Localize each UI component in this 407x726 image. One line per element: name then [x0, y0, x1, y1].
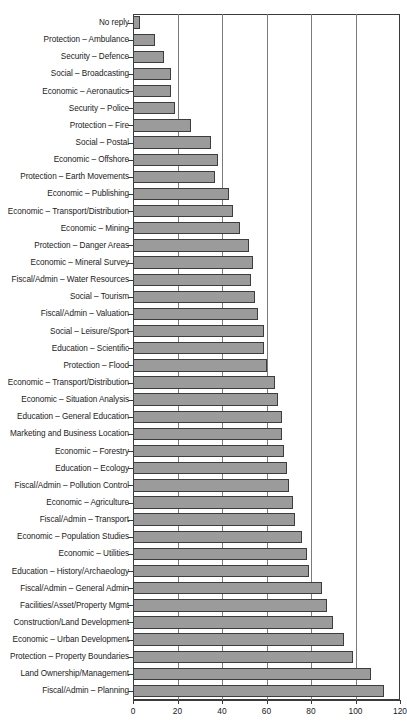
bar[interactable]	[133, 616, 333, 628]
bar[interactable]	[133, 342, 264, 354]
bar[interactable]	[133, 222, 240, 234]
bar[interactable]	[133, 599, 327, 611]
bar[interactable]	[133, 68, 171, 80]
bar[interactable]	[133, 256, 253, 268]
bar-row[interactable]: Marketing and Business Location	[0, 425, 406, 442]
category-label: Land Ownership/Management	[21, 665, 129, 682]
bar-row[interactable]: Fiscal/Admin – Transport	[0, 511, 406, 528]
bar-row[interactable]: Education – History/Archaeology	[0, 563, 406, 580]
bar[interactable]	[133, 239, 249, 251]
bar-track	[133, 445, 400, 457]
bar-row[interactable]: Protection – Ambulance	[0, 31, 406, 48]
bar[interactable]	[133, 428, 282, 440]
bar-row[interactable]: Protection – Danger Areas	[0, 237, 406, 254]
bar-row[interactable]: Economic – Mineral Survey	[0, 254, 406, 271]
bar[interactable]	[133, 411, 282, 423]
bar-row[interactable]: Economic – Transport/Distribution	[0, 374, 406, 391]
bar-row[interactable]: Economic – Mining	[0, 220, 406, 237]
bar[interactable]	[133, 188, 229, 200]
bar-track	[133, 171, 400, 183]
bar[interactable]	[133, 565, 309, 577]
bar-track	[133, 119, 400, 131]
bar-row[interactable]: Economic – Urban Development	[0, 631, 406, 648]
bar[interactable]	[133, 445, 284, 457]
bar-row[interactable]: Land Ownership/Management	[0, 665, 406, 682]
bar-row[interactable]: Education – Ecology	[0, 460, 406, 477]
bar-row[interactable]: Economic – Situation Analysis	[0, 391, 406, 408]
bar[interactable]	[133, 548, 307, 560]
bar-row[interactable]: Protection – Property Boundaries	[0, 648, 406, 665]
bar[interactable]	[133, 531, 302, 543]
bar-row[interactable]: Fiscal/Admin – Valuation	[0, 305, 406, 322]
bar[interactable]	[133, 85, 171, 97]
bar-row[interactable]: Economic – Publishing	[0, 185, 406, 202]
bar[interactable]	[133, 205, 233, 217]
bar[interactable]	[133, 685, 384, 697]
bar[interactable]	[133, 119, 191, 131]
bar[interactable]	[133, 651, 353, 663]
bar-row[interactable]: Economic – Offshore	[0, 151, 406, 168]
bar[interactable]	[133, 359, 267, 371]
bar[interactable]	[133, 51, 164, 63]
category-label: Economic – Urban Development	[13, 631, 129, 648]
bar-row[interactable]: No reply	[0, 14, 406, 31]
bar-row[interactable]: Fiscal/Admin – General Admin	[0, 580, 406, 597]
bar[interactable]	[133, 513, 295, 525]
bar-row[interactable]: Security – Defence	[0, 48, 406, 65]
category-label: Social – Leisure/Sport	[50, 323, 129, 340]
bar-track	[133, 274, 400, 286]
bar-row[interactable]: Social – Leisure/Sport	[0, 323, 406, 340]
bar-row[interactable]: Fiscal/Admin – Planning	[0, 682, 406, 699]
bar[interactable]	[133, 496, 293, 508]
category-label: Economic – Population Studies	[17, 528, 129, 545]
bar-row[interactable]: Education – General Education	[0, 408, 406, 425]
bar-track	[133, 462, 400, 474]
bar[interactable]	[133, 479, 289, 491]
bar-track	[133, 342, 400, 354]
bar-track	[133, 34, 400, 46]
category-label: Social – Tourism	[70, 288, 129, 305]
bar[interactable]	[133, 462, 287, 474]
bar-row[interactable]: Security – Police	[0, 100, 406, 117]
bar[interactable]	[133, 274, 251, 286]
bar-row[interactable]: Education – Scientific	[0, 340, 406, 357]
bar[interactable]	[133, 633, 344, 645]
category-label: Fiscal/Admin – Valuation	[41, 305, 129, 322]
bar-row[interactable]: Economic – Aeronautics	[0, 83, 406, 100]
bar-row[interactable]: Economic – Population Studies	[0, 528, 406, 545]
bar-row[interactable]: Economic – Agriculture	[0, 494, 406, 511]
bar[interactable]	[133, 136, 211, 148]
bar-track	[133, 239, 400, 251]
bar-track	[133, 325, 400, 337]
bar-row[interactable]: Social – Broadcasting	[0, 65, 406, 82]
bar[interactable]	[133, 102, 175, 114]
bar-row[interactable]: Economic – Transport/Distribution	[0, 203, 406, 220]
bar[interactable]	[133, 171, 215, 183]
category-label: Economic – Forestry	[55, 443, 129, 460]
bar-row[interactable]: Economic – Utilities	[0, 545, 406, 562]
bar-row[interactable]: Social – Tourism	[0, 288, 406, 305]
bar-row[interactable]: Economic – Forestry	[0, 443, 406, 460]
x-tick-label-20: 20	[173, 706, 182, 716]
bar[interactable]	[133, 668, 371, 680]
bar-row[interactable]: Protection – Earth Movements	[0, 168, 406, 185]
bar-row[interactable]: Protection – Flood	[0, 357, 406, 374]
bar[interactable]	[133, 154, 218, 166]
bar-row[interactable]: Fiscal/Admin – Water Resources	[0, 271, 406, 288]
bar[interactable]	[133, 582, 322, 594]
category-label: Social – Postal	[76, 134, 129, 151]
x-tick-120	[400, 700, 401, 704]
bar[interactable]	[133, 16, 140, 28]
bar-row[interactable]: Fiscal/Admin – Pollution Control	[0, 477, 406, 494]
bar[interactable]	[133, 291, 255, 303]
bar[interactable]	[133, 325, 264, 337]
bar[interactable]	[133, 308, 258, 320]
bar-row[interactable]: Construction/Land Development	[0, 614, 406, 631]
bar[interactable]	[133, 376, 275, 388]
bar-row[interactable]: Protection – Fire	[0, 117, 406, 134]
bar-row[interactable]: Facilities/Asset/Property Mgmt	[0, 597, 406, 614]
bar-row[interactable]: Social – Postal	[0, 134, 406, 151]
bar[interactable]	[133, 34, 155, 46]
category-label: Education – History/Archaeology	[12, 563, 129, 580]
bar[interactable]	[133, 393, 278, 405]
